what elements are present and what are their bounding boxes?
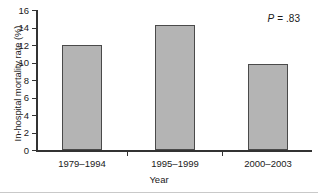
x-category-label-3: 2000–2003: [244, 158, 292, 169]
x-category-label-2: 1995–1999: [151, 158, 199, 169]
bottom-edge-artifact: [0, 192, 318, 193]
bar-chart-figure: In-hospital mortality rate (%) 16 14 12 …: [0, 0, 318, 194]
y-tick-12: 12: [32, 45, 36, 46]
y-tick-8: 8: [32, 80, 36, 81]
y-tick-4: 4: [32, 115, 36, 116]
y-tick-label-10: 10: [18, 58, 29, 68]
y-tick-label-12: 12: [18, 41, 29, 51]
bar-1995-1999: [155, 25, 195, 150]
y-tick-label-8: 8: [24, 76, 29, 86]
x-axis-title: Year: [0, 174, 318, 185]
y-tick-label-4: 4: [24, 111, 29, 121]
y-tick-6: 6: [32, 98, 36, 99]
y-tick-0: 0: [32, 150, 36, 151]
y-tick-label-6: 6: [24, 93, 29, 103]
x-axis-line: [36, 150, 312, 152]
y-tick-14: 14: [32, 28, 36, 29]
y-tick-label-16: 16: [18, 6, 29, 16]
y-tick-label-2: 2: [24, 128, 29, 138]
y-tick-2: 2: [32, 133, 36, 134]
p-statistic-symbol: P: [268, 13, 275, 24]
p-value-annotation: P=.83: [268, 13, 300, 24]
plot-area: 16 14 12 10 8 6 4 2 0: [36, 8, 312, 152]
y-tick-label-14: 14: [18, 23, 29, 33]
y-tick-10: 10: [32, 63, 36, 64]
bar-1979-1994: [62, 45, 102, 150]
bar-2000-2003: [248, 64, 288, 150]
x-tick-separator-2: [222, 151, 223, 156]
x-tick-separator-1: [127, 151, 128, 156]
p-value-number: .83: [286, 13, 300, 24]
y-tick-16: 16: [32, 10, 36, 11]
x-category-label-1: 1979–1994: [58, 158, 106, 169]
y-tick-label-0: 0: [24, 146, 29, 156]
p-relation: =: [277, 13, 283, 24]
y-axis-line: [36, 10, 38, 150]
